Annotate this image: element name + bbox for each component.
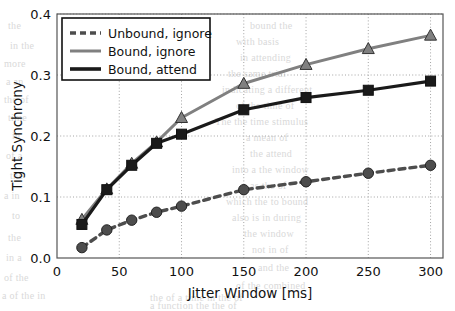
- data-point-circle: [151, 207, 161, 217]
- x-axis-label: Jitter Window [ms]: [187, 285, 313, 301]
- series-line: [82, 81, 431, 224]
- y-axis-label: Tight Synchrony: [9, 81, 25, 191]
- data-point-circle: [363, 168, 373, 178]
- series-2: [77, 76, 436, 229]
- data-point-square: [127, 160, 137, 170]
- data-point-square: [363, 85, 373, 95]
- x-tick-label: 250: [356, 264, 381, 279]
- data-point-triangle: [425, 29, 437, 40]
- data-point-circle: [176, 201, 186, 211]
- x-tick-label: 50: [111, 264, 128, 279]
- data-point-circle: [425, 160, 435, 170]
- data-point-square: [77, 219, 87, 229]
- legend-item-label-2: Bound, attend: [108, 62, 197, 77]
- x-tick-label: 200: [294, 264, 319, 279]
- data-point-square: [426, 76, 436, 86]
- y-tick-label: 0.4: [30, 7, 51, 22]
- data-point-circle: [239, 184, 249, 194]
- x-tick-label: 150: [231, 264, 256, 279]
- x-tick-label: 0: [53, 264, 61, 279]
- x-tick-label: 100: [169, 264, 194, 279]
- x-tick-label: 300: [418, 264, 443, 279]
- data-point-square: [152, 138, 162, 148]
- data-point-square: [301, 93, 311, 103]
- y-tick-label: 0.2: [30, 129, 51, 144]
- data-point-square: [177, 129, 187, 139]
- data-point-circle: [301, 177, 311, 187]
- legend-item-label-0: Unbound, ignore: [108, 26, 212, 41]
- data-point-circle: [77, 242, 87, 252]
- data-point-square: [239, 105, 249, 115]
- y-tick-label: 0.3: [30, 68, 51, 83]
- data-point-circle: [127, 215, 137, 225]
- data-point-circle: [102, 225, 112, 235]
- y-tick-label: 0.1: [30, 190, 51, 205]
- legend-item-label-1: Bound, ignore: [108, 44, 196, 59]
- data-point-square: [102, 185, 112, 195]
- chart-legend: Unbound, ignoreBound, ignoreBound, atten…: [62, 18, 212, 80]
- series-0: [77, 160, 436, 253]
- y-tick-label: 0.0: [30, 251, 51, 266]
- series-line: [82, 165, 431, 247]
